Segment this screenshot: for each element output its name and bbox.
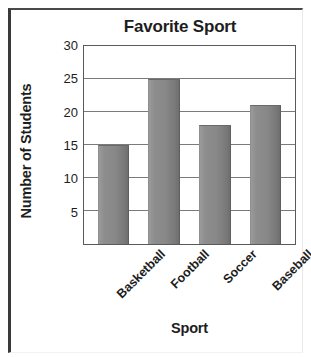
bar-slot	[240, 46, 291, 244]
x-axis-tick-label: Football	[168, 247, 212, 291]
x-axis-tick-label: Soccer	[220, 247, 259, 286]
y-axis-title: Number of Students	[18, 71, 34, 231]
bar-basketball	[98, 145, 129, 244]
y-axis-tick-label: 10	[64, 171, 78, 186]
y-axis-tick-labels: 51015202530	[50, 45, 78, 245]
y-axis-tick-label: 5	[71, 204, 78, 219]
x-axis-tick-labels: BasketballFootballSoccerBaseball	[83, 245, 296, 315]
chart-page: Favorite Sport Number of Students 510152…	[0, 0, 311, 357]
bar-slot	[88, 46, 139, 244]
y-axis-tick-label: 25	[64, 71, 78, 86]
bar-slot	[139, 46, 190, 244]
chart-title: Favorite Sport	[60, 17, 300, 37]
y-axis-tick-label: 15	[64, 138, 78, 153]
bar-baseball	[250, 105, 281, 244]
bar-soccer	[199, 125, 230, 244]
bar-football	[148, 79, 179, 244]
y-axis-tick-label: 20	[64, 104, 78, 119]
x-axis-title: Sport	[83, 320, 296, 336]
x-axis-tick-label: Baseball	[270, 247, 311, 293]
y-axis-tick-label: 30	[64, 38, 78, 53]
bar-slot	[190, 46, 241, 244]
x-axis-tick-label: Basketball	[114, 247, 168, 301]
bar-series	[84, 46, 295, 244]
plot-area	[83, 45, 296, 245]
